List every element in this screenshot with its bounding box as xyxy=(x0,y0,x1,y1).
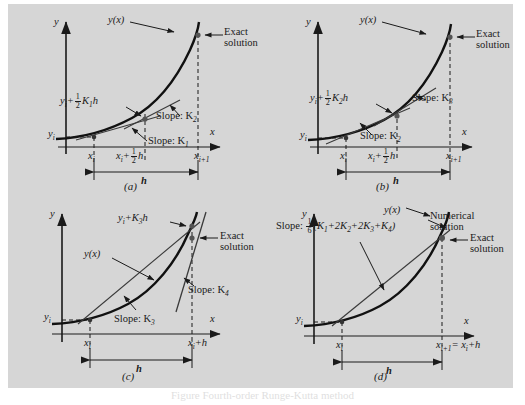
panel-d-exact-annotation: Exact solution xyxy=(470,232,504,254)
slope-k3-line xyxy=(78,222,200,324)
figure-container: y x y(x) Exact solution yi yi+12K1h Slop… xyxy=(8,4,513,388)
panel-c-slope-k3-label: Slope: K3 xyxy=(114,313,155,327)
fraction-half: 12 xyxy=(383,148,389,165)
panel-a-estimate-label: yi+12K1h xyxy=(60,93,98,110)
panel-b-tick-right-label: xi+1 xyxy=(446,150,461,164)
panel-d-numerical-annotation: Numerical solution xyxy=(430,210,474,232)
panel-d-slope-formula: Slope: 16(K1+2K2+2K3+K4) xyxy=(276,218,395,235)
panel-b-tick-left-label: xi xyxy=(340,150,347,164)
fraction-one-sixth: 16 xyxy=(306,218,312,235)
figure-caption: Figure Fourth-order Runge-Kutta method xyxy=(0,389,525,405)
numerical-solution-line xyxy=(332,230,450,326)
panel-a-caption: (a) xyxy=(124,180,137,192)
panel-d: y x y(x) Slope: 16(K1+2K2+2K3+K4) Numeri… xyxy=(260,194,512,386)
panel-a-x-axis-label: x xyxy=(210,126,215,137)
panel-c-y-axis-label: y xyxy=(50,208,55,219)
panel-b-curve-label: y(x) xyxy=(360,14,376,25)
panel-c: y x y(x) yi+K3h Exact solution yi Slope:… xyxy=(8,194,260,386)
panel-b-y-axis-label: y xyxy=(306,16,311,27)
estimate-label-leader xyxy=(376,104,392,113)
point-estimate xyxy=(189,223,194,228)
estimate-label-leader xyxy=(170,222,186,226)
slope-formula-leader xyxy=(360,242,384,290)
panel-a-slope-k1-label: Slope: K1 xyxy=(148,135,189,149)
panel-d-tick-right-label: xi+1= xi+h xyxy=(436,339,480,353)
slope-k3-leader xyxy=(124,296,136,310)
panel-d-curve-label: y(x) xyxy=(384,204,400,215)
panel-b-h-label: h xyxy=(393,175,399,186)
panel-a-tick-mid-label: xi+12h xyxy=(116,148,143,165)
panel-b-tick-mid-label: xi+12h xyxy=(368,148,395,165)
panel-b-slope-k3-label: Slope: K3 xyxy=(412,92,453,106)
point-midpoint xyxy=(142,116,147,121)
panel-a-h-label: h xyxy=(141,175,147,186)
point-exact xyxy=(189,235,194,240)
panel-a-y-start-label: yi xyxy=(48,128,55,142)
point-midpoint xyxy=(394,113,399,118)
panel-d-tick-left-label: xi xyxy=(336,339,343,353)
panel-a-tick-right-label: xi+1 xyxy=(194,150,209,164)
panel-b-caption: (b) xyxy=(376,180,389,192)
panel-b-slope-k2-label: Slope: K2 xyxy=(360,130,401,144)
panel-c-h-label: h xyxy=(136,363,142,374)
panel-b-y-start-label: yi xyxy=(300,129,307,143)
point-exact xyxy=(195,32,200,37)
panel-b: y x y(x) Exact solution yi yi+12K2h Slop… xyxy=(260,4,512,196)
curve-label-leader xyxy=(406,208,430,216)
panel-c-estimate-label: yi+K3h xyxy=(118,212,148,226)
exact-solution-curve xyxy=(52,212,197,324)
curve-label-leader xyxy=(382,22,426,34)
panel-a: y x y(x) Exact solution yi yi+12K1h Slop… xyxy=(8,4,260,196)
panel-a-tick-left-label: xi xyxy=(88,150,95,164)
panel-c-exact-annotation: Exact solution xyxy=(220,230,254,252)
panel-a-exact-annotation: Exact solution xyxy=(224,26,258,48)
estimate-label-leader xyxy=(126,107,141,116)
panel-a-graphic xyxy=(8,4,260,196)
point-start xyxy=(88,318,93,323)
panel-b-x-axis-label: x xyxy=(462,126,467,137)
curve-label-leader xyxy=(112,258,154,280)
point-exact xyxy=(439,235,445,241)
point-exact xyxy=(447,34,452,39)
panel-c-curve-label: y(x) xyxy=(84,248,100,259)
panel-b-exact-annotation: Exact solution xyxy=(476,28,510,50)
fraction-half: 12 xyxy=(75,93,81,110)
panel-d-x-axis-label: x xyxy=(464,315,469,326)
panel-b-graphic xyxy=(260,4,512,196)
panel-a-y-axis-label: y xyxy=(54,16,59,27)
point-start xyxy=(340,320,345,325)
fraction-half: 12 xyxy=(131,148,137,165)
panel-a-curve-label: y(x) xyxy=(108,14,124,25)
panel-c-caption: (c) xyxy=(122,370,134,382)
panel-c-slope-k4-label: Slope: K4 xyxy=(188,284,229,298)
point-start xyxy=(344,136,349,141)
panel-c-tick-left-label: xi xyxy=(84,337,91,351)
panel-b-estimate-label: yi+12K2h xyxy=(310,90,348,107)
curve-label-leader xyxy=(130,22,174,32)
panel-a-slope-k2-label: Slope: K2 xyxy=(156,110,197,124)
panel-c-x-axis-label: x xyxy=(210,313,215,324)
point-start xyxy=(92,135,97,140)
fraction-half: 12 xyxy=(325,90,331,107)
panel-c-y-start-label: yi xyxy=(44,311,51,325)
panel-d-caption: (d) xyxy=(374,370,387,382)
panel-c-tick-right-label: xi+h xyxy=(188,337,207,351)
panel-d-y-start-label: yi xyxy=(296,313,303,327)
